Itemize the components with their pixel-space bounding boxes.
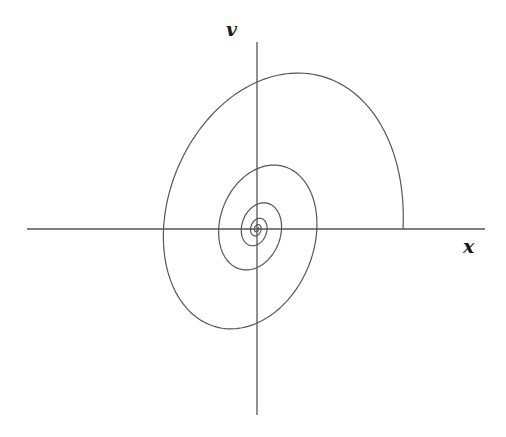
x-axis-label: x <box>463 237 474 256</box>
spiral-trajectory <box>163 73 403 329</box>
phase-diagram <box>0 0 506 437</box>
v-axis-label: v <box>226 20 237 39</box>
